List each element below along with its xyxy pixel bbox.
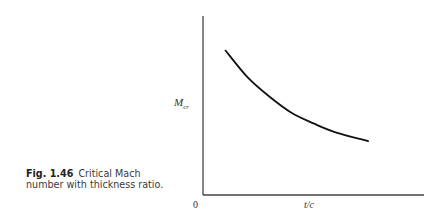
chart: 0 t/c Mcr — [0, 0, 441, 219]
y-axis-label: Mcr — [173, 96, 189, 111]
data-curve — [225, 50, 369, 141]
origin-label: 0 — [193, 199, 198, 210]
x-axis-label: t/c — [304, 199, 315, 210]
